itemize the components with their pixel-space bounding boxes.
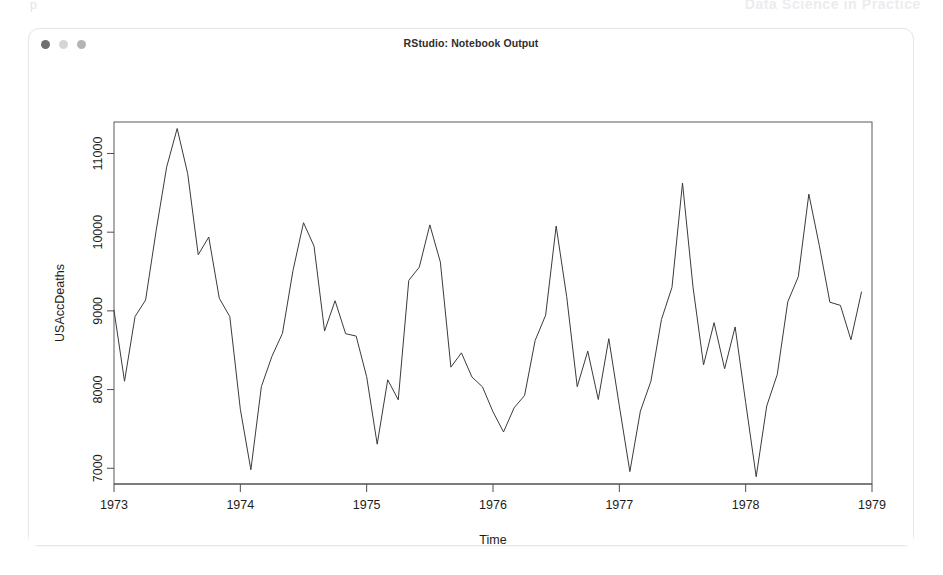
- page-header-left-text: p: [30, 0, 37, 12]
- y-tick-label: 10000: [91, 215, 105, 250]
- window-title: RStudio: Notebook Output: [29, 37, 913, 49]
- x-tick-label: 1975: [353, 498, 381, 512]
- x-tick-label: 1977: [605, 498, 633, 512]
- y-tick-label: 8000: [91, 376, 105, 404]
- x-tick-label: 1974: [226, 498, 254, 512]
- x-axis-title: Time: [479, 533, 506, 545]
- window-titlebar[interactable]: RStudio: Notebook Output: [29, 29, 913, 59]
- x-tick-label: 1979: [858, 498, 886, 512]
- page-header-right-text: Data Science in Practice: [745, 0, 921, 12]
- x-axis-ticks: 1973197419751976197719781979: [100, 484, 886, 512]
- page-header-strip: p Data Science in Practice: [0, 0, 943, 16]
- y-tick-label: 9000: [91, 297, 105, 325]
- usaccdeaths-time-series-chart: 7000800090001000011000 19731974197519761…: [29, 59, 913, 545]
- notebook-output-window: RStudio: Notebook Output 700080009000100…: [28, 28, 914, 546]
- y-tick-label: 7000: [91, 454, 105, 482]
- plot-canvas: 7000800090001000011000 19731974197519761…: [29, 59, 913, 545]
- x-tick-label: 1976: [479, 498, 507, 512]
- x-tick-label: 1973: [100, 498, 128, 512]
- y-tick-label: 11000: [91, 137, 105, 171]
- series-line-usaccdeaths: [114, 129, 861, 477]
- y-axis-title: USAccDeaths: [53, 264, 67, 342]
- data-series-group: [114, 129, 861, 477]
- y-axis-ticks: 7000800090001000011000: [91, 137, 115, 483]
- x-tick-label: 1978: [732, 498, 760, 512]
- plot-frame: [114, 122, 872, 484]
